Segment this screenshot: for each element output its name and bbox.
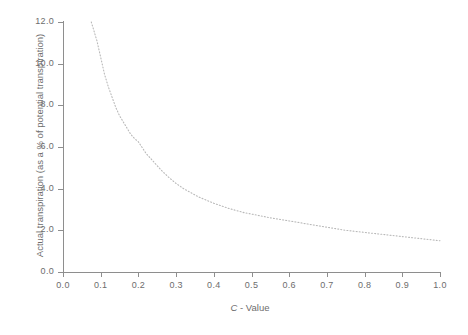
x-axis-label-rest: - Value <box>240 302 269 313</box>
x-tick-0.6 <box>289 272 290 277</box>
x-tick-0.7 <box>327 272 328 277</box>
y-tick-4.0 <box>58 189 63 190</box>
x-tick-label-0.6: 0.6 <box>274 280 304 290</box>
x-tick-label-0.8: 0.8 <box>350 280 380 290</box>
x-tick-0.3 <box>176 272 177 277</box>
x-tick-0.9 <box>402 272 403 277</box>
y-tick-6.0 <box>58 147 63 148</box>
x-tick-label-0.5: 0.5 <box>237 280 267 290</box>
x-tick-label-0.3: 0.3 <box>161 280 191 290</box>
y-tick-12.0 <box>58 22 63 23</box>
x-tick-label-0.1: 0.1 <box>86 280 116 290</box>
y-tick-8.0 <box>58 105 63 106</box>
y-axis-label: Actual transpiration (as a % of potentia… <box>34 21 45 271</box>
x-tick-label-0.4: 0.4 <box>199 280 229 290</box>
y-tick-0.0 <box>58 272 63 273</box>
x-tick-label-0.2: 0.2 <box>123 280 153 290</box>
x-tick-0.1 <box>101 272 102 277</box>
x-tick-label-0.7: 0.7 <box>312 280 342 290</box>
y-tick-2.0 <box>58 230 63 231</box>
x-axis-label: C - Value <box>195 302 305 313</box>
x-tick-label-0.0: 0.0 <box>48 280 78 290</box>
x-tick-0.8 <box>365 272 366 277</box>
x-tick-0.2 <box>138 272 139 277</box>
chart-figure: 0.00.10.20.30.40.50.60.70.80.91.0 0.02.0… <box>0 0 468 335</box>
x-tick-label-0.9: 0.9 <box>387 280 417 290</box>
transpiration-curve <box>91 22 440 241</box>
y-axis-line <box>63 21 64 273</box>
x-tick-0.0 <box>63 272 64 277</box>
x-tick-0.5 <box>252 272 253 277</box>
x-tick-0.4 <box>214 272 215 277</box>
x-axis-label-symbol: C <box>231 302 238 313</box>
x-tick-label-1.0: 1.0 <box>425 280 455 290</box>
y-tick-10.0 <box>58 64 63 65</box>
x-tick-1.0 <box>440 272 441 277</box>
